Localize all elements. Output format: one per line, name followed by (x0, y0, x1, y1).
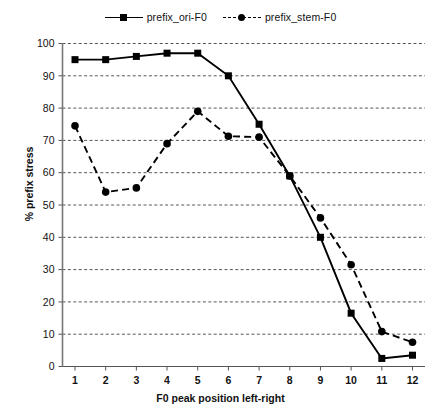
data-point-marker (133, 184, 141, 192)
data-point-marker (409, 338, 417, 346)
series-line-prefix-stem-f0 (75, 111, 413, 342)
y-tick-label-90: 90 (43, 70, 55, 82)
data-point-marker (102, 56, 109, 63)
data-point-marker (225, 132, 233, 140)
data-point-marker (286, 172, 294, 180)
series-line-prefix-ori-f0 (75, 53, 413, 358)
x-tick-label-11: 11 (376, 374, 387, 386)
x-tick-label-1: 1 (72, 374, 78, 386)
data-point-marker (72, 56, 79, 63)
y-tick-label-0: 0 (49, 360, 55, 372)
plot-area: 0102030405060708090100123456789101112 (0, 0, 441, 417)
data-point-marker (225, 72, 232, 79)
data-point-marker (256, 121, 263, 128)
x-axis-title: F0 peak position left-right (0, 392, 441, 404)
x-tick-label-12: 12 (407, 374, 419, 386)
x-tick-label-2: 2 (103, 374, 109, 386)
x-tick-label-7: 7 (256, 374, 262, 386)
y-tick-label-40: 40 (43, 231, 55, 243)
data-point-marker (102, 188, 110, 196)
x-tick-label-5: 5 (195, 374, 201, 386)
data-point-marker (133, 53, 140, 60)
y-tick-label-100: 100 (37, 37, 55, 49)
data-point-marker (255, 133, 263, 141)
data-point-marker (71, 122, 79, 130)
data-point-marker (378, 328, 386, 336)
x-tick-label-8: 8 (287, 374, 293, 386)
data-point-marker (194, 50, 201, 57)
y-axis-title: % prefix stress (23, 129, 35, 239)
y-tick-label-10: 10 (43, 328, 55, 340)
data-point-marker (194, 108, 202, 116)
x-tick-label-9: 9 (318, 374, 324, 386)
x-tick-label-10: 10 (345, 374, 357, 386)
y-tick-label-70: 70 (43, 134, 55, 146)
y-tick-label-50: 50 (43, 199, 55, 211)
data-point-marker (347, 261, 355, 269)
data-point-marker (348, 310, 355, 317)
data-point-marker (409, 352, 416, 359)
data-point-marker (163, 140, 171, 148)
data-point-marker (164, 50, 171, 57)
data-point-marker (317, 214, 325, 222)
y-tick-label-80: 80 (43, 102, 55, 114)
data-point-marker (378, 355, 385, 362)
x-tick-label-3: 3 (133, 374, 139, 386)
y-tick-label-20: 20 (43, 296, 55, 308)
y-tick-label-60: 60 (43, 166, 55, 178)
y-tick-label-30: 30 (43, 263, 55, 275)
data-point-marker (317, 234, 324, 241)
line-chart: prefix_ori-F0 prefix_stem-F0 01020304050… (0, 0, 441, 417)
x-tick-label-4: 4 (164, 374, 170, 386)
x-tick-label-6: 6 (225, 374, 231, 386)
